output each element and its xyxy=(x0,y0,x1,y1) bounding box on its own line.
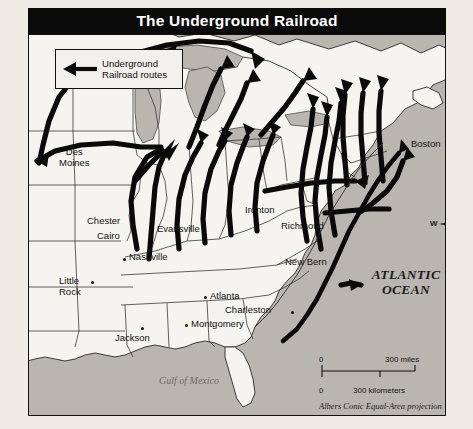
compass-west-label: W xyxy=(430,219,438,228)
city-name-line2: Moines xyxy=(59,158,90,169)
city-label-new-bern: New Bern xyxy=(285,257,327,268)
page-title: The Underground Railroad xyxy=(136,12,337,30)
map-legend: Underground Railroad routes xyxy=(55,49,183,89)
city-label-little-rock: Little Rock xyxy=(59,276,81,297)
scale-miles-value: 300 miles xyxy=(385,355,419,364)
city-label-richmond: Richmond xyxy=(281,221,324,232)
map-canvas: Underground Railroad routes Des Moines C… xyxy=(28,34,446,416)
city-label-evansville: Evansville xyxy=(157,224,200,235)
atlantic-ocean-label: ATLANTIC OCEAN xyxy=(363,267,446,297)
city-label-chester: Chester xyxy=(87,216,120,227)
legend-text-block: Underground Railroad routes xyxy=(102,58,167,81)
legend-line-2: Railroad routes xyxy=(102,69,167,81)
city-label-boston: Boston xyxy=(411,139,441,150)
underground-railroad-map-figure: The Underground Railroad xyxy=(0,0,473,429)
city-label-montgomery: Montgomery xyxy=(191,319,244,330)
map-scale: 0 300 miles 0 300 kilometers Albers Coni… xyxy=(319,355,439,401)
legend-line-1: Underground xyxy=(102,58,167,70)
city-label-jackson: Jackson xyxy=(115,333,150,344)
city-label-cairo: Cairo xyxy=(97,231,120,242)
scale-km-start: 0 xyxy=(319,386,323,395)
scale-bar-graphic xyxy=(319,364,429,380)
projection-label: Albers Conic Equal-Area projection xyxy=(319,401,442,411)
city-label-des-moines: Des Moines xyxy=(59,147,90,168)
gulf-of-mexico-label: Gulf of Mexico xyxy=(159,375,219,386)
map-title-banner: The Underground Railroad xyxy=(28,8,446,34)
city-label-atlanta: Atlanta xyxy=(210,291,240,302)
city-label-nashville: Nashville xyxy=(129,252,168,263)
compass-rose: N E S W xyxy=(427,193,446,255)
city-label-ironton: Ironton xyxy=(245,205,275,216)
city-name-line1: Des xyxy=(59,147,90,158)
city-label-charleston: Charleston xyxy=(225,305,271,316)
scale-row-kilometers: 0 300 kilometers xyxy=(319,386,439,401)
scale-km-value: 300 kilometers xyxy=(353,386,405,395)
scale-miles-start: 0 xyxy=(319,355,323,364)
left-arrow-icon xyxy=(61,60,99,78)
